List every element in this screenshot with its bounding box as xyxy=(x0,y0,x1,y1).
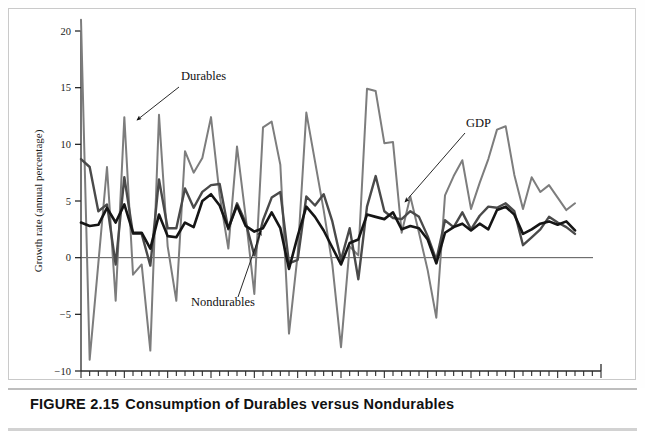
figure-title: Consumption of Durables versus Nondurabl… xyxy=(125,396,454,412)
figure-caption: FIGURE 2.15Consumption of Durables versu… xyxy=(30,396,454,412)
y-axis-title: Growth rate (annual percentage) xyxy=(32,129,45,272)
chart-axes: −10−505101520195019551960196519701975198… xyxy=(55,26,612,379)
caption-bottom-rule xyxy=(8,428,637,431)
y-tick-label: 5 xyxy=(66,196,71,207)
consumption-line-chart: −10−505101520195019551960196519701975198… xyxy=(9,9,635,379)
y-tick-label: 10 xyxy=(61,139,72,150)
y-tick-label: −10 xyxy=(55,366,71,377)
caption-top-rule xyxy=(8,388,637,390)
y-tick-label: 15 xyxy=(61,82,72,93)
annotation-arrow-gdp xyxy=(405,133,465,202)
y-tick-label: 20 xyxy=(61,26,72,37)
figure-page: −10−505101520195019551960196519701975198… xyxy=(0,0,645,436)
annotation-label-durables: Durables xyxy=(181,69,226,83)
series-line-durables xyxy=(81,20,575,360)
chart-series xyxy=(81,20,575,360)
series-line-gdp xyxy=(81,159,575,279)
chart-annotations: DurablesGDPNondurables xyxy=(137,69,491,309)
y-tick-label: 0 xyxy=(66,252,71,263)
y-tick-label: −5 xyxy=(60,309,71,320)
figure-panel: −10−505101520195019551960196519701975198… xyxy=(8,8,636,380)
figure-caption-band: FIGURE 2.15Consumption of Durables versu… xyxy=(0,388,645,436)
annotation-label-nondurables: Nondurables xyxy=(191,295,255,309)
figure-number: FIGURE 2.15 xyxy=(30,396,119,412)
annotation-label-gdp: GDP xyxy=(466,116,491,130)
